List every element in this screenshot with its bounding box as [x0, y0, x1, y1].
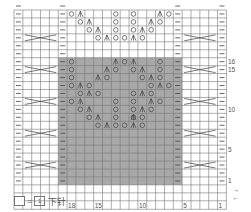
decrease-icon [158, 11, 163, 17]
legend-boxed-number: 1 [34, 196, 45, 206]
yarn-over-icon [131, 20, 136, 25]
row-label: 5 [228, 146, 232, 153]
legend-empty-square [14, 196, 25, 206]
legend: = 1 下针 [14, 195, 66, 207]
yarn-over-icon [167, 12, 172, 17]
yarn-over-icon [149, 28, 154, 33]
right-arrow-icon: → [232, 186, 239, 193]
yarn-over-icon [122, 36, 127, 41]
legend-equals: = [27, 196, 32, 206]
yarn-over-icon [158, 20, 163, 25]
row-label: 1 [228, 177, 232, 184]
decrease-icon [87, 19, 92, 25]
yarn-over-icon [131, 12, 136, 17]
decrease-icon [131, 35, 136, 41]
column-label: 5 [183, 202, 187, 209]
column-label: 18 [68, 202, 76, 209]
legend-text: 下针 [48, 195, 66, 208]
yarn-over-icon [131, 28, 136, 33]
yarn-over-icon [69, 12, 74, 17]
yarn-over-icon [96, 36, 101, 41]
column-label: 1 [219, 202, 223, 209]
yarn-over-icon [113, 28, 118, 33]
yarn-over-icon [113, 12, 118, 17]
column-label: 15 [95, 202, 103, 209]
decrease-icon [96, 27, 101, 33]
yarn-over-icon [113, 20, 118, 25]
left-arrow-icon: ← [232, 194, 239, 201]
yarn-over-icon [140, 36, 145, 41]
row-label: 10 [228, 106, 236, 113]
decrease-icon [140, 27, 145, 33]
yarn-over-icon [78, 20, 83, 25]
decrease-icon [149, 19, 154, 25]
row-label: 16 [228, 58, 236, 65]
decrease-icon [78, 11, 83, 17]
yarn-over-icon [113, 36, 118, 41]
row-label: 15 [228, 66, 236, 73]
decrease-icon [104, 35, 109, 41]
yarn-over-icon [87, 28, 92, 33]
column-label: 10 [139, 202, 147, 209]
knitting-chart: 1815105116151051→← [0, 0, 251, 212]
